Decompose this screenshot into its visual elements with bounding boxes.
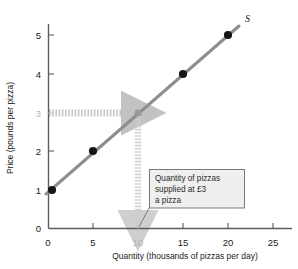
callout-line-3: a pizza: [155, 196, 181, 205]
y-tick-1: 1: [36, 185, 41, 196]
y-axis: [49, 24, 55, 229]
x-tick-25: 25: [268, 237, 279, 248]
chart-canvas: 0 1 2 3 4 5 0 5 10 15 20 25 Quantity (th…: [0, 0, 298, 269]
callout-line-1: Quantity of pizzas: [155, 174, 220, 183]
x-tick-0: 0: [45, 237, 50, 248]
highlight-point-10-3: [134, 109, 141, 116]
y-tick-0: 0: [36, 223, 41, 234]
x-tick-10: 10: [133, 237, 144, 248]
x-tick-20: 20: [223, 237, 234, 248]
y-tick-5: 5: [36, 30, 41, 41]
supply-curve-label: S: [245, 13, 250, 24]
callout-box: Quantity of pizzas supplied at £3 a pizz…: [150, 170, 245, 209]
y-tick-4: 4: [36, 69, 41, 80]
x-axis: [49, 223, 293, 229]
y-tick-3: 3: [36, 108, 41, 119]
data-point-4: [224, 31, 232, 39]
callout-leader-line: [139, 208, 149, 227]
y-axis-title: Price (pounds per pizza): [5, 82, 15, 174]
x-tick-15: 15: [178, 237, 189, 248]
x-axis-title: Quantity (thousands of pizzas per day): [112, 251, 258, 261]
x-tick-5: 5: [90, 237, 95, 248]
data-point-3: [179, 70, 187, 78]
supply-curve-figure: 0 1 2 3 4 5 0 5 10 15 20 25 Quantity (th…: [0, 0, 298, 269]
data-point-1: [89, 147, 97, 155]
data-point-0: [48, 186, 56, 194]
y-tick-2: 2: [36, 146, 41, 157]
callout-line-2: supplied at £3: [155, 185, 206, 194]
